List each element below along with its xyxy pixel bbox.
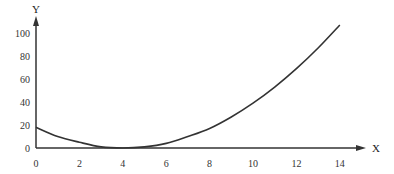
- x-tick-label: 2: [77, 158, 82, 169]
- x-tick-label: 14: [335, 158, 345, 169]
- y-tick-label: 40: [20, 97, 30, 108]
- x-tick-label: 8: [207, 158, 212, 169]
- x-axis-arrow-icon: [356, 145, 366, 151]
- x-tick-label: 6: [164, 158, 169, 169]
- x-tick-label: 4: [120, 158, 125, 169]
- y-tick-label: 60: [20, 74, 30, 85]
- y-tick-label: 0: [25, 143, 30, 154]
- axes: X Y: [32, 3, 380, 154]
- x-tick-label: 0: [34, 158, 39, 169]
- x-tick-label: 10: [248, 158, 258, 169]
- y-tick-label: 20: [20, 120, 30, 131]
- x-tick-label: 12: [291, 158, 301, 169]
- y-axis-arrow-icon: [33, 16, 39, 26]
- chart: X Y 02468101214 020406080100: [0, 0, 394, 174]
- y-tick-label: 80: [20, 51, 30, 62]
- y-tick-label: 100: [15, 28, 30, 39]
- y-tick-labels: 020406080100: [15, 28, 30, 154]
- x-axis-label: X: [372, 142, 380, 154]
- y-axis-label: Y: [32, 3, 40, 15]
- data-line: [36, 25, 340, 148]
- x-tick-labels: 02468101214: [34, 158, 345, 169]
